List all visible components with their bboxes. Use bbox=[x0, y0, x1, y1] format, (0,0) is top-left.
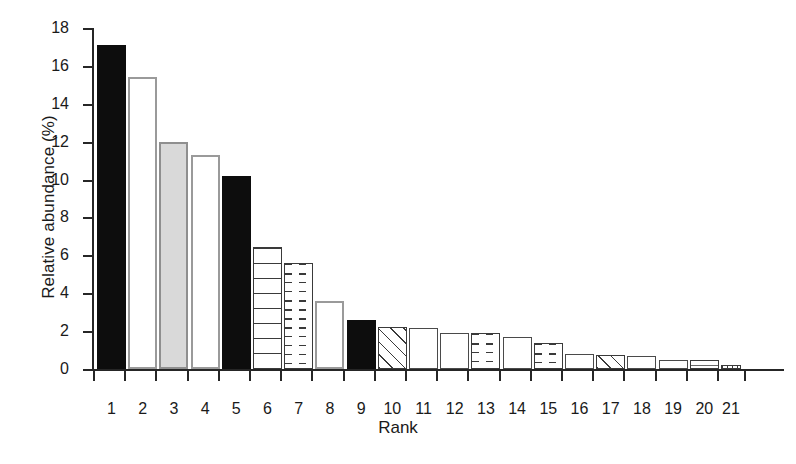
x-tick-mark bbox=[187, 371, 189, 381]
x-tick-mark bbox=[155, 371, 157, 381]
x-tick-label: 13 bbox=[477, 400, 495, 418]
x-tick-mark bbox=[623, 371, 625, 381]
x-tick-label: 1 bbox=[107, 400, 116, 418]
bar-rank-11 bbox=[409, 328, 438, 369]
y-tick-mark bbox=[83, 255, 92, 257]
y-tick-mark bbox=[83, 180, 92, 182]
x-tick-mark bbox=[744, 371, 746, 381]
x-tick-mark bbox=[530, 371, 532, 381]
x-tick-mark bbox=[124, 371, 126, 381]
x-tick-mark bbox=[592, 371, 594, 381]
bar-rank-1 bbox=[97, 45, 126, 369]
y-tick-label: 12 bbox=[29, 134, 69, 150]
x-tick-mark bbox=[218, 371, 220, 381]
x-tick-mark bbox=[467, 371, 469, 381]
y-axis-line bbox=[92, 28, 94, 371]
bar-rank-4 bbox=[191, 155, 220, 369]
x-tick-label: 4 bbox=[201, 400, 210, 418]
bar-rank-13 bbox=[471, 333, 500, 369]
x-tick-mark bbox=[655, 371, 657, 381]
y-tick-label: 6 bbox=[29, 247, 69, 263]
x-tick-label: 11 bbox=[415, 400, 432, 418]
x-tick-mark bbox=[717, 371, 719, 381]
x-tick-mark bbox=[686, 371, 688, 381]
bar-rank-2 bbox=[128, 77, 157, 369]
y-tick-label: 14 bbox=[29, 96, 69, 112]
x-tick-label: 21 bbox=[722, 400, 740, 418]
x-tick-mark bbox=[249, 371, 251, 381]
x-tick-label: 5 bbox=[232, 400, 241, 418]
bar-rank-3 bbox=[159, 142, 188, 369]
y-tick-label: 2 bbox=[29, 323, 69, 339]
y-tick-mark bbox=[83, 142, 92, 144]
y-tick-mark bbox=[83, 66, 92, 68]
x-tick-label: 16 bbox=[571, 400, 589, 418]
x-tick-label: 8 bbox=[325, 400, 334, 418]
x-tick-label: 6 bbox=[263, 400, 272, 418]
y-tick-label: 8 bbox=[29, 209, 69, 225]
x-tick-label: 9 bbox=[357, 400, 366, 418]
y-tick-mark bbox=[83, 104, 92, 106]
y-tick-label: 4 bbox=[29, 285, 69, 301]
x-tick-label: 12 bbox=[446, 400, 464, 418]
x-tick-label: 20 bbox=[695, 400, 713, 418]
x-tick-mark bbox=[405, 371, 407, 381]
x-tick-mark bbox=[374, 371, 376, 381]
x-tick-label: 10 bbox=[383, 400, 401, 418]
x-tick-label: 7 bbox=[294, 400, 303, 418]
bar-rank-6 bbox=[253, 247, 282, 369]
bar-rank-14 bbox=[503, 337, 532, 369]
x-tick-label: 19 bbox=[664, 400, 682, 418]
x-tick-mark bbox=[93, 371, 95, 381]
x-tick-mark bbox=[499, 371, 501, 381]
x-tick-label: 3 bbox=[169, 400, 178, 418]
y-tick-mark bbox=[83, 331, 92, 333]
x-axis-title: Rank bbox=[0, 418, 796, 438]
y-tick-label: 18 bbox=[29, 20, 69, 36]
bar-rank-20 bbox=[690, 360, 719, 369]
x-tick-mark bbox=[561, 371, 563, 381]
bar-rank-7 bbox=[284, 263, 313, 369]
y-tick-mark bbox=[83, 28, 92, 30]
bar-rank-17 bbox=[596, 355, 625, 369]
bar-chart: Relative abundance (%) Rank 024681012141… bbox=[0, 0, 796, 464]
y-tick-label: 0 bbox=[29, 361, 69, 377]
y-tick-label: 16 bbox=[29, 58, 69, 74]
x-tick-label: 18 bbox=[633, 400, 651, 418]
y-tick-mark bbox=[83, 369, 92, 371]
x-tick-mark bbox=[436, 371, 438, 381]
plot-area: 024681012141618 123456789101112131415161… bbox=[92, 28, 782, 370]
bar-rank-5 bbox=[222, 176, 251, 369]
bar-rank-15 bbox=[534, 343, 563, 369]
bar-rank-16 bbox=[565, 354, 594, 369]
bar-rank-21 bbox=[721, 365, 741, 369]
y-tick-label: 10 bbox=[29, 172, 69, 188]
x-tick-label: 17 bbox=[602, 400, 620, 418]
y-tick-mark bbox=[83, 217, 92, 219]
x-tick-mark bbox=[311, 371, 313, 381]
x-tick-label: 14 bbox=[508, 400, 526, 418]
x-tick-label: 15 bbox=[539, 400, 557, 418]
y-tick-mark bbox=[83, 293, 92, 295]
bar-rank-8 bbox=[315, 301, 344, 369]
x-tick-label: 2 bbox=[138, 400, 147, 418]
x-tick-mark bbox=[343, 371, 345, 381]
x-tick-mark bbox=[280, 371, 282, 381]
bar-rank-19 bbox=[659, 360, 688, 369]
bar-rank-12 bbox=[440, 333, 469, 369]
bar-rank-9 bbox=[347, 320, 376, 369]
bar-rank-10 bbox=[378, 327, 407, 369]
bar-rank-18 bbox=[627, 356, 656, 369]
